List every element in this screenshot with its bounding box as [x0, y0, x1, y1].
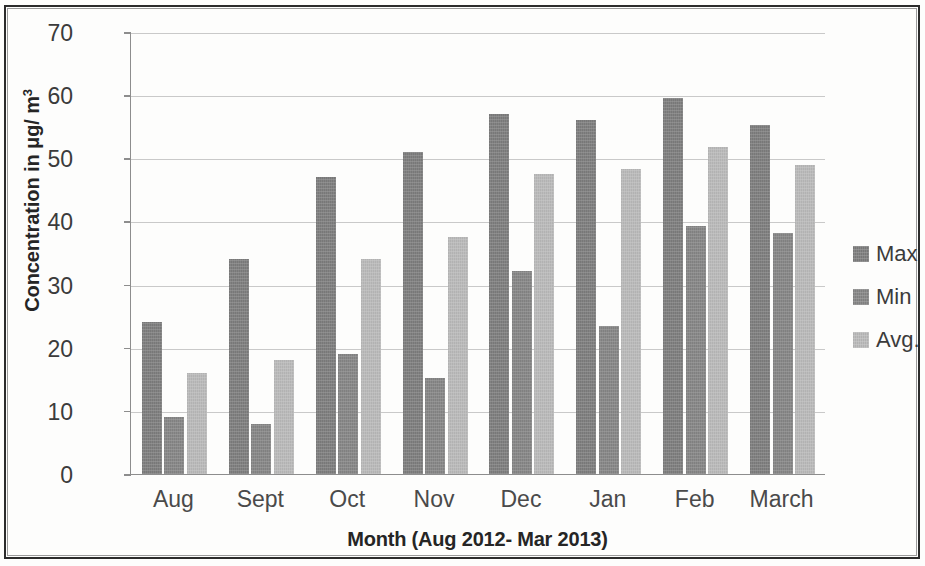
- bar-min-aug[interactable]: [164, 417, 184, 474]
- bar-avg-jan[interactable]: [621, 169, 641, 474]
- bar-chart: Concentration in μg/ m3 010203040506070 …: [0, 0, 925, 566]
- legend-label: Avg.: [876, 329, 920, 351]
- x-axis-title: Month (Aug 2012- Mar 2013): [130, 528, 825, 551]
- bar-max-sept[interactable]: [229, 259, 249, 474]
- bar-group: [739, 33, 826, 474]
- bar-min-feb[interactable]: [686, 226, 706, 474]
- x-axis-tick-label: Oct: [329, 486, 365, 513]
- bar-group: [652, 33, 739, 474]
- y-axis-tick: [124, 32, 131, 34]
- y-axis-tick-label: 40: [13, 209, 73, 236]
- bar-avg-sept[interactable]: [274, 360, 294, 474]
- bar-avg-feb[interactable]: [708, 147, 728, 474]
- bar-min-sept[interactable]: [251, 424, 271, 475]
- bar-max-feb[interactable]: [663, 98, 683, 474]
- bar-group: [479, 33, 566, 474]
- bar-series-container: [131, 33, 825, 474]
- chart-page: Concentration in μg/ m3 010203040506070 …: [0, 0, 925, 566]
- bar-max-march[interactable]: [750, 125, 770, 474]
- y-axis-tick-label: 70: [13, 20, 73, 47]
- bar-min-march[interactable]: [773, 233, 793, 474]
- bar-group: [565, 33, 652, 474]
- y-axis-tick-label: 30: [13, 272, 73, 299]
- bar-avg-aug[interactable]: [187, 373, 207, 474]
- x-axis-tick-label: Dec: [500, 486, 541, 513]
- bar-max-oct[interactable]: [316, 177, 336, 474]
- x-axis-tick-label: Aug: [153, 486, 194, 513]
- legend-label: Max: [876, 243, 918, 265]
- x-axis-tick-label: Feb: [675, 486, 715, 513]
- bar-group: [218, 33, 305, 474]
- x-axis-tick-label: March: [750, 486, 814, 513]
- bar-min-jan[interactable]: [599, 326, 619, 474]
- y-axis-tick-label: 0: [13, 462, 73, 489]
- x-axis-tick-label: Jan: [589, 486, 626, 513]
- plot-area: 010203040506070: [130, 33, 825, 475]
- x-axis-tick-label: Nov: [414, 486, 455, 513]
- y-axis-tick: [124, 221, 131, 223]
- legend-swatch-icon: [853, 246, 869, 262]
- legend-swatch-icon: [853, 332, 869, 348]
- y-axis-tick: [124, 95, 131, 97]
- legend-swatch-icon: [853, 289, 869, 305]
- x-axis-tick-label: Sept: [237, 486, 284, 513]
- y-axis-tick-label: 50: [13, 146, 73, 173]
- y-axis-tick: [124, 411, 131, 413]
- y-axis-tick: [124, 348, 131, 350]
- bar-max-aug[interactable]: [142, 322, 162, 474]
- bar-min-oct[interactable]: [338, 354, 358, 474]
- legend-item-avg[interactable]: Avg.: [853, 318, 921, 361]
- legend-label: Min: [876, 286, 911, 308]
- y-axis-tick: [124, 158, 131, 160]
- legend-item-max[interactable]: Max: [853, 232, 921, 275]
- bar-avg-nov[interactable]: [448, 237, 468, 474]
- bar-group: [305, 33, 392, 474]
- bar-avg-march[interactable]: [795, 165, 815, 474]
- bar-avg-dec[interactable]: [534, 174, 554, 474]
- y-axis-tick-label: 60: [13, 83, 73, 110]
- bar-group: [131, 33, 218, 474]
- y-axis-tick-label: 20: [13, 335, 73, 362]
- bar-group: [392, 33, 479, 474]
- bar-max-nov[interactable]: [403, 152, 423, 474]
- legend-item-min[interactable]: Min: [853, 275, 921, 318]
- y-axis-tick: [124, 474, 131, 476]
- bar-avg-oct[interactable]: [361, 259, 381, 474]
- chart-legend: MaxMinAvg.: [853, 232, 921, 361]
- bar-min-nov[interactable]: [425, 378, 445, 474]
- bar-max-dec[interactable]: [489, 114, 509, 474]
- y-axis-tick: [124, 285, 131, 287]
- y-axis-tick-label: 10: [13, 398, 73, 425]
- bar-min-dec[interactable]: [512, 271, 532, 474]
- bar-max-jan[interactable]: [576, 120, 596, 474]
